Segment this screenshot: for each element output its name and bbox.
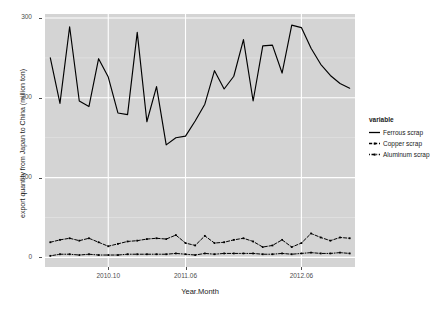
x-axis-tick-label: 2010.10 [83,273,133,280]
legend-key-icon [368,138,381,149]
legend-item-aluminum-scrap[interactable]: Aluminum scrap [368,149,439,160]
legend-item-copper-scrap[interactable]: Copper scrap [368,138,439,149]
x-axis-tick-mark [186,267,187,270]
series-copper-scrap [49,233,350,248]
series-aluminum-scrap [49,252,350,257]
x-axis-tick-mark [108,267,109,270]
x-axis-tick-label: 2012.06 [276,273,326,280]
legend-entries: Ferrous scrapCopper scrapAluminum scrap [368,127,439,160]
y-axis-tick-label: 300 [21,14,32,21]
legend-item-label: Ferrous scrap [381,129,423,136]
plot-panel [45,14,355,267]
y-axis-tick-labels: 0100200300 [0,0,38,309]
chart-container: export quantity from Japan to China (mil… [0,0,439,309]
legend: variable Ferrous scrapCopper scrapAlumin… [368,116,439,160]
legend-key-icon [368,149,381,160]
y-axis-tick-mark [39,257,42,258]
legend-key-icon [368,127,381,138]
legend-title: variable [368,116,439,123]
y-axis-tick-mark [39,98,42,99]
x-axis-tick-label: 2011.06 [161,273,211,280]
y-axis-tick-label: 0 [28,254,32,261]
y-axis-tick-mark [39,178,42,179]
legend-item-ferrous-scrap[interactable]: Ferrous scrap [368,127,439,138]
plot-title [45,0,355,4]
y-axis-tick-mark [39,18,42,19]
y-axis-tick-label: 100 [21,174,32,181]
plot-area [45,14,355,267]
x-axis-tick-mark [301,267,302,270]
series-ferrous-scrap [50,25,349,145]
x-axis-title: Year.Month [45,287,355,296]
legend-item-label: Aluminum scrap [381,151,430,158]
y-axis-tick-label: 200 [21,94,32,101]
legend-item-label: Copper scrap [381,140,422,147]
grid-lines [45,14,355,267]
